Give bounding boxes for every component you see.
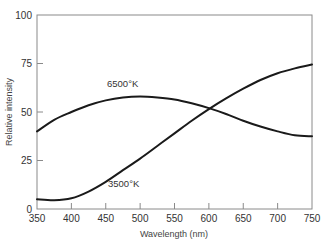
spectral-intensity-chart: 350400450500550600650700750 0255075100 W…	[0, 0, 329, 247]
data-series	[37, 64, 312, 200]
annotation-3500k: 3500°K	[108, 178, 140, 189]
x-tick-label: 350	[29, 213, 46, 224]
x-tick-label: 650	[235, 213, 252, 224]
y-tick-label: 50	[21, 107, 33, 118]
x-tick-label: 450	[97, 213, 114, 224]
x-axis-ticks: 350400450500550600650700750	[29, 203, 321, 224]
x-axis-label: Wavelength (nm)	[140, 229, 208, 239]
y-axis-label: Relative intensity	[4, 77, 14, 146]
x-tick-label: 550	[166, 213, 183, 224]
annotation-6500k: 6500°K	[107, 78, 139, 89]
y-tick-label: 75	[21, 58, 33, 69]
y-tick-label: 0	[26, 204, 32, 215]
plot-frame	[37, 15, 312, 209]
y-tick-label: 100	[15, 10, 32, 21]
x-tick-label: 600	[201, 213, 218, 224]
x-tick-label: 750	[304, 213, 321, 224]
x-tick-label: 700	[269, 213, 286, 224]
plot-border	[37, 15, 312, 209]
y-axis-ticks: 0255075100	[15, 10, 43, 215]
series-line-3500k	[37, 64, 312, 200]
y-tick-label: 25	[21, 155, 33, 166]
x-tick-label: 500	[132, 213, 149, 224]
series-line-6500k	[37, 96, 312, 136]
x-tick-label: 400	[63, 213, 80, 224]
